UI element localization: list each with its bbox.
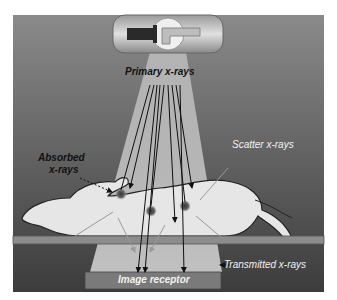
diagram-canvas — [0, 0, 337, 300]
diagram: Primary x-rays Absorbed x-rays Scatter x… — [0, 0, 337, 300]
transmitted-label: Transmitted x-rays — [224, 259, 306, 270]
absorbed-label-line2: x-rays — [49, 164, 78, 175]
table — [13, 236, 324, 244]
absorbed-label-line1: Absorbed — [38, 152, 85, 163]
x-ray-tube-icon — [113, 15, 223, 53]
scatter-label: Scatter x-rays — [232, 139, 294, 150]
absorption-point — [145, 205, 157, 217]
primary-label: Primary x-rays — [125, 66, 195, 77]
receptor-label: Image receptor — [118, 274, 190, 285]
